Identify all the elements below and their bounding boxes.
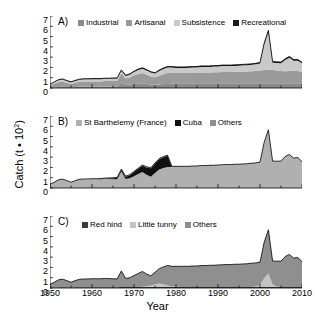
x-tick-1970: 1970 <box>124 288 144 298</box>
panel-c-y-tick-1: 1 <box>32 278 48 287</box>
x-axis-tick-labels: 1950196019701980199020002010 <box>50 288 302 300</box>
panel-b-y-tick-2: 2 <box>32 167 48 176</box>
panel-b-y-tick-4: 4 <box>32 147 48 156</box>
panel-b-y-tick-3: 3 <box>32 157 48 166</box>
x-tick-1980: 1980 <box>166 288 186 298</box>
panel-b: 76543210 B) St Barthelemy (France)CubaOt… <box>0 104 315 204</box>
figure-catch-timeseries: Catch (t • 102) 76543210 A) IndustrialAr… <box>0 0 315 320</box>
panel-a-y-tick-1: 1 <box>32 78 48 87</box>
panel-c-y-ticks: 76543210 <box>32 212 48 292</box>
panel-a-y-tick-3: 3 <box>32 57 48 66</box>
panel-a-y-tick-7: 7 <box>32 16 48 25</box>
panel-c-y-tick-3: 3 <box>32 257 48 266</box>
panel-a: 76543210 A) IndustrialArtisanalSubsisten… <box>0 4 315 104</box>
panel-a-y-tick-2: 2 <box>32 67 48 76</box>
x-tick-2000: 2000 <box>250 288 270 298</box>
panel-b-y-tick-7: 7 <box>32 116 48 125</box>
panel-b-y-ticks: 76543210 <box>32 112 48 192</box>
x-tick-1950: 1950 <box>40 288 60 298</box>
panel-a-y-tick-6: 6 <box>32 26 48 35</box>
panel-a-plot <box>50 16 302 88</box>
panel-b-y-tick-1: 1 <box>32 178 48 187</box>
panel-c-y-tick-4: 4 <box>32 247 48 256</box>
panel-b-y-tick-6: 6 <box>32 126 48 135</box>
panel-a-y-tick-0: 0 <box>32 88 48 97</box>
panel-a-y-tick-4: 4 <box>32 47 48 56</box>
panel-a-area-chart <box>50 16 302 89</box>
panel-a-y-tick-5: 5 <box>32 37 48 46</box>
panel-c-y-tick-6: 6 <box>32 226 48 235</box>
area-series-st-barthelemy-france <box>50 130 302 188</box>
panel-b-y-tick-0: 0 <box>32 188 48 197</box>
panel-c-y-tick-5: 5 <box>32 237 48 246</box>
panel-c-plot <box>50 216 302 288</box>
panel-c-area-chart <box>50 216 302 289</box>
panel-a-y-ticks: 76543210 <box>32 12 48 92</box>
panel-c-y-tick-7: 7 <box>32 216 48 225</box>
panel-b-area-chart <box>50 116 302 189</box>
panel-b-plot <box>50 116 302 188</box>
x-axis-label: Year <box>0 300 315 312</box>
panel-b-y-tick-5: 5 <box>32 137 48 146</box>
x-tick-1990: 1990 <box>208 288 228 298</box>
panel-c-y-tick-2: 2 <box>32 267 48 276</box>
x-tick-1960: 1960 <box>82 288 102 298</box>
x-tick-2010: 2010 <box>292 288 312 298</box>
